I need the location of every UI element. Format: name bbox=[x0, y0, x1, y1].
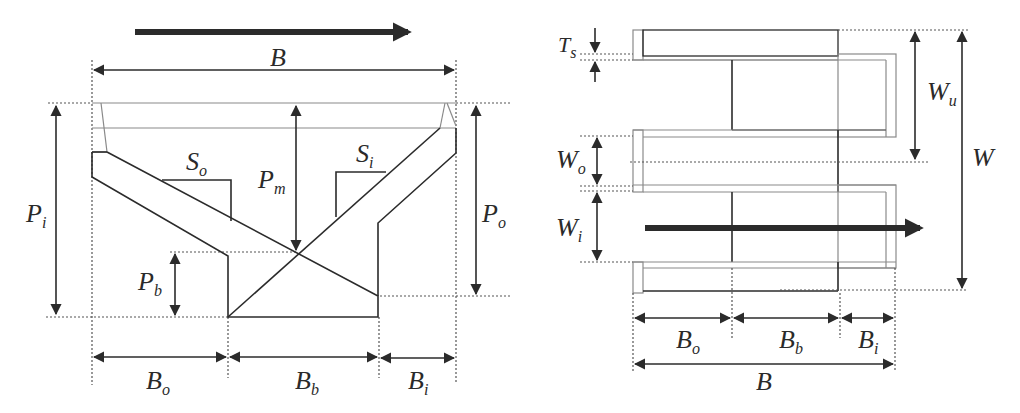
label-Bb-plan: Bb bbox=[779, 325, 803, 357]
label-Pm: Pm bbox=[257, 165, 285, 197]
label-Bi-plan: Bi bbox=[858, 325, 878, 357]
cross-section-view: B Pi bbox=[25, 32, 510, 398]
label-So: So bbox=[186, 147, 207, 179]
weir-diagram: B Pi bbox=[0, 0, 1020, 413]
label-B-plan: B bbox=[756, 367, 772, 396]
label-Wo: Wo bbox=[556, 145, 586, 177]
label-Wu: Wu bbox=[927, 77, 957, 109]
label-Po: Po bbox=[481, 199, 506, 231]
label-Bo: Bo bbox=[146, 366, 170, 398]
label-Bi: Bi bbox=[408, 366, 428, 398]
label-Ts: Ts bbox=[558, 32, 576, 61]
label-Bo-plan: Bo bbox=[676, 325, 700, 357]
plan-view: Ts Wo Wi Wu W Bo Bb Bi B bbox=[556, 28, 996, 396]
label-W: W bbox=[972, 143, 996, 172]
label-Pi: Pi bbox=[25, 199, 46, 231]
label-B: B bbox=[270, 43, 286, 72]
label-Si: Si bbox=[356, 139, 373, 171]
label-Pb: Pb bbox=[137, 267, 162, 299]
label-Bb: Bb bbox=[295, 366, 319, 398]
label-Wi: Wi bbox=[556, 213, 582, 245]
